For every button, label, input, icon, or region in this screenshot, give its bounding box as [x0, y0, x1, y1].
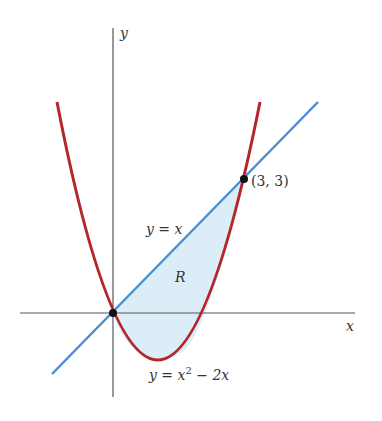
region-label: R [174, 269, 186, 285]
y-axis-label: y [119, 25, 129, 41]
parabola-label-tail: − 2x [192, 367, 230, 383]
intersection-point-origin [109, 309, 117, 317]
parabola-label: y = x2 − 2x [148, 365, 229, 383]
line-label: y = x [145, 221, 183, 237]
region-between-curves-figure: y x (3, 3) y = x R y = x2 − 2x [0, 0, 382, 421]
x-axis-label: x [346, 318, 354, 334]
point-label-3-3: (3, 3) [251, 173, 289, 189]
parabola-label-main: y = x [148, 367, 186, 383]
intersection-point-3-3 [240, 175, 248, 183]
